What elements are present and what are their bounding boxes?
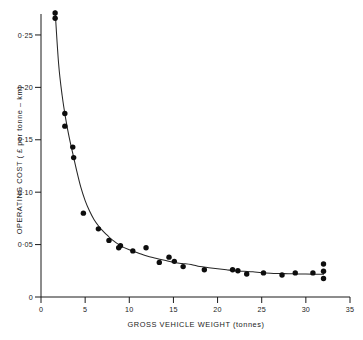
data-point [230, 267, 235, 272]
data-point [52, 10, 57, 15]
data-point [202, 267, 207, 272]
data-point [70, 144, 75, 149]
y-tick-label: 0·25 [18, 31, 33, 40]
chart-figure: 00·050·100·150·200·25 05101520253035 GRO… [0, 0, 363, 340]
x-axis-title: GROSS VEHICLE WEIGHT (tonnes) [128, 320, 265, 329]
x-tick-label: 15 [169, 305, 177, 314]
data-point [172, 259, 177, 264]
data-point [279, 272, 284, 277]
data-point [157, 260, 162, 265]
data-point [143, 245, 148, 250]
data-point [130, 248, 135, 253]
data-point [71, 155, 76, 160]
data-point [106, 238, 111, 243]
data-point [52, 15, 57, 20]
data-point [310, 270, 315, 275]
x-tick-label: 5 [83, 305, 87, 314]
data-point [166, 254, 171, 259]
x-tick-label: 20 [213, 305, 221, 314]
data-point [235, 268, 240, 273]
data-point [62, 123, 67, 128]
data-point [321, 276, 326, 281]
data-points [52, 10, 326, 281]
y-tick-label: 0 [29, 293, 33, 302]
x-tick-label: 25 [258, 305, 266, 314]
data-point [321, 261, 326, 266]
data-point [321, 269, 326, 274]
x-axis-ticks: 05101520253035 [39, 297, 354, 314]
data-point [244, 271, 249, 276]
y-axis-title: OPERATING COST ( £ per tonne – km) [15, 86, 24, 235]
data-point [62, 111, 67, 116]
data-point [293, 270, 298, 275]
data-point [116, 245, 121, 250]
y-tick-label: 0·05 [18, 240, 33, 249]
data-point [81, 210, 86, 215]
x-tick-label: 10 [125, 305, 133, 314]
x-tick-label: 30 [302, 305, 310, 314]
data-point [180, 264, 185, 269]
data-point [261, 270, 266, 275]
fitted-curve [55, 11, 323, 274]
x-tick-label: 0 [39, 305, 43, 314]
scatter-plot: 00·050·100·150·200·25 05101520253035 GRO… [0, 0, 363, 340]
data-point [96, 226, 101, 231]
x-tick-label: 35 [346, 305, 354, 314]
x-axis: 05101520253035 [39, 297, 354, 314]
